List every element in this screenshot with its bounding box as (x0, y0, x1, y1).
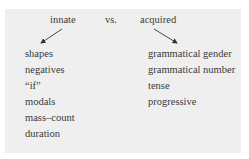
innate-item: modals (25, 96, 55, 108)
arrow-innate (41, 29, 62, 43)
innate-item: shapes (25, 48, 53, 60)
acquired-item: tense (148, 80, 170, 92)
acquired-item: grammatical gender (148, 48, 232, 60)
innate-item: “if” (25, 80, 41, 92)
acquired-item: progressive (148, 96, 196, 108)
acquired-item: grammatical number (148, 64, 235, 76)
header-innate: innate (50, 14, 76, 26)
innate-item: negatives (25, 64, 65, 76)
innate-item: duration (25, 128, 60, 140)
arrow-acquired (154, 29, 177, 43)
header-acquired: acquired (140, 14, 176, 26)
innate-item: mass–count (25, 112, 75, 124)
header-vs: vs. (105, 14, 117, 26)
